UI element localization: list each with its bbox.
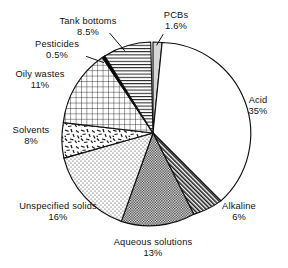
label-solvents-name: Solvents xyxy=(13,125,50,135)
label-solvents-value: 8% xyxy=(24,136,38,146)
label-acid-value: 35% xyxy=(248,106,267,116)
label-aqueous-value: 13% xyxy=(143,248,162,258)
label-pesticides-name: Pesticides xyxy=(35,39,79,49)
pie-slices xyxy=(62,42,251,226)
pie-chart-svg: PCBs 1.6% Tank bottoms 8.5% Pesticides 0… xyxy=(0,0,288,268)
label-pesticides-value: 0.5% xyxy=(46,50,68,60)
pie-chart-figure: PCBs 1.6% Tank bottoms 8.5% Pesticides 0… xyxy=(0,0,288,268)
label-aqueous-name: Aqueous solutions xyxy=(114,237,193,247)
label-oily-wastes-name: Oily wastes xyxy=(15,69,64,79)
leader-line-tank-bottoms xyxy=(110,34,125,51)
label-tank-bottoms-value: 8.5% xyxy=(77,27,99,37)
label-alkaline-value: 6% xyxy=(232,212,246,222)
label-unspecified-solids-value: 16% xyxy=(48,212,67,222)
label-oily-wastes-value: 11% xyxy=(31,80,49,90)
label-unspecified-solids-name: Unspecified solids xyxy=(19,201,97,211)
label-pcbs-value: 1.6% xyxy=(165,21,187,31)
label-acid-name: Acid xyxy=(249,95,268,105)
label-pcbs-name: PCBs xyxy=(164,10,189,20)
label-tank-bottoms-name: Tank bottoms xyxy=(59,16,116,26)
label-alkaline-name: Alkaline xyxy=(222,201,256,211)
